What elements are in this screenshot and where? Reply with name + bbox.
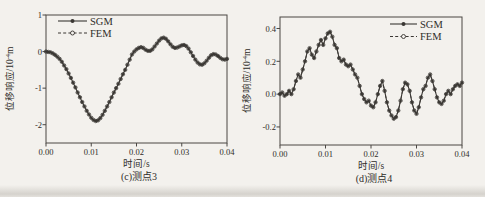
- ytick-label: -2: [35, 120, 42, 130]
- chart-panel-c: 1 0 -1 -2 0.00 0.01 0.02 0.03 0.04 位移响应/…: [4, 10, 236, 183]
- xtick-label: 0.04: [455, 149, 471, 159]
- legend-marker-fem-icon: [402, 35, 406, 39]
- ytick-label: 0.2: [265, 57, 276, 67]
- y-axis-label-d: 位移响应/10-4m: [241, 48, 253, 114]
- x-axis-label-c: 时间/s: [123, 158, 150, 169]
- ytick-label: -0.2: [263, 122, 276, 132]
- legend-label-fem: FEM: [90, 28, 112, 39]
- dual-line-chart-figure: 1 0 -1 -2 0.00 0.01 0.02 0.03 0.04 位移响应/…: [0, 0, 485, 197]
- xtick-label: 0.03: [409, 149, 424, 159]
- legend-marker-sgm-icon: [402, 22, 406, 26]
- legend-c: SGM FEM: [58, 16, 113, 39]
- data-series-d: [278, 30, 463, 120]
- legend-marker-sgm-icon: [71, 19, 75, 23]
- xtick-label: 0.01: [318, 149, 333, 159]
- chart-panel-d: 0.4 0.2 0.0 -0.2 0.00 0.01 0.02 0.03 0.0…: [241, 17, 471, 185]
- xtick-label: 0.04: [220, 147, 236, 157]
- xtick-label: 0.02: [364, 149, 379, 159]
- legend-label-sgm: SGM: [420, 19, 443, 30]
- caption-c: (c)测点3: [121, 170, 157, 183]
- xtick-label: 0.01: [84, 147, 99, 157]
- data-series-c: [44, 36, 228, 123]
- x-axis-label-d: 时间/s: [358, 160, 385, 171]
- y-axis-label-c: 位移响应/10-4m: [4, 46, 16, 112]
- xtick-label: 0.00: [39, 147, 54, 157]
- ytick-label: 1: [38, 10, 42, 20]
- axis-ticks-c: [43, 15, 228, 147]
- caption-d: (d)测点4: [356, 172, 393, 185]
- legend-label-fem: FEM: [420, 31, 442, 42]
- ytick-label: -1: [35, 83, 42, 93]
- xtick-label: 0.03: [174, 147, 189, 157]
- figure-page: 1 0 -1 -2 0.00 0.01 0.02 0.03 0.04 位移响应/…: [0, 0, 485, 197]
- ytick-label: 0: [38, 47, 42, 57]
- ytick-label: 0.4: [265, 24, 276, 34]
- xtick-label: 0.02: [129, 147, 144, 157]
- legend-marker-fem-icon: [71, 31, 75, 35]
- ytick-label: 0.0: [265, 89, 276, 99]
- legend-label-sgm: SGM: [90, 16, 113, 27]
- legend-d: SGM FEM: [390, 19, 443, 43]
- xtick-label: 0.00: [273, 149, 288, 159]
